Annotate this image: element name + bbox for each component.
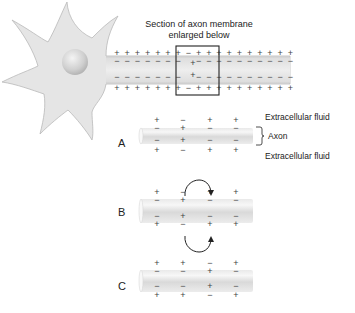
charge-inner-bottom: − — [227, 72, 232, 82]
charge-inner-top: − — [247, 56, 252, 66]
charge-outer-bottom: + — [278, 83, 283, 93]
charge-outer-bottom: + — [227, 83, 232, 93]
charge-inner-bottom: − — [233, 135, 238, 145]
charge-inner-top: − — [257, 56, 262, 66]
charge-outer-bottom: + — [154, 145, 159, 155]
charge-inner-bottom: − — [237, 72, 242, 82]
charge-outer-bottom: + — [154, 219, 159, 229]
charge-inner-top: − — [125, 56, 130, 66]
charge-inner-top: − — [154, 123, 159, 133]
charge-inner-bottom: − — [257, 72, 262, 82]
charge-outer-bottom: + — [207, 145, 212, 155]
axon-label: Axon — [268, 131, 288, 141]
panel-a: A +−++−+−−−+−−+−++ Extracellular fluid A… — [118, 112, 330, 161]
charge-outer-bottom: + — [257, 83, 262, 93]
current-arrow-bottom-icon — [185, 236, 211, 252]
charge-inner-bottom: − — [196, 72, 201, 82]
charge-inner-top: − — [154, 266, 159, 276]
panel-label-b: B — [118, 206, 125, 218]
charge-inner-top: − — [233, 123, 238, 133]
charge-outer-bottom: + — [165, 83, 170, 93]
title-line2: enlarged below — [168, 30, 230, 40]
charge-outer-bottom: + — [206, 83, 211, 93]
panel-label-c: C — [118, 280, 126, 292]
charge-outer-bottom: + — [145, 83, 150, 93]
charge-outer-bottom: + — [135, 83, 140, 93]
charge-outer-bottom: + — [288, 83, 293, 93]
charge-inner-bottom: − — [288, 72, 293, 82]
charge-outer-bottom: − — [180, 219, 185, 229]
charge-inner-bottom: − — [145, 72, 150, 82]
charge-inner-top: − — [155, 56, 160, 66]
charge-inner-top: + — [180, 123, 185, 133]
charge-inner-bottom: − — [247, 72, 252, 82]
axon-bracket — [256, 127, 264, 145]
charge-inner-top: − — [135, 56, 140, 66]
charge-inner-top: − — [180, 266, 185, 276]
charge-outer-bottom: + — [180, 290, 185, 300]
charge-inner-top: − — [233, 195, 238, 205]
charge-inner-top: − — [114, 56, 119, 66]
charge-inner-top: − — [207, 123, 212, 133]
charge-inner-bottom: + — [190, 70, 195, 80]
charge-outer-bottom: + — [233, 290, 238, 300]
charge-inner-top: + — [180, 195, 185, 205]
charge-outer-bottom: + — [154, 290, 159, 300]
charge-outer-bottom: + — [196, 83, 201, 93]
charge-outer-bottom: + — [114, 83, 119, 93]
charge-inner-bottom: − — [135, 72, 140, 82]
charge-outer-top: − — [186, 48, 191, 58]
charge-inner-bottom: − — [165, 72, 170, 82]
charge-outer-bottom: − — [207, 290, 212, 300]
charge-inner-bottom: − — [155, 72, 160, 82]
charge-inner-top: − — [227, 56, 232, 66]
extracellular-fluid-top-label: Extracellular fluid — [265, 112, 330, 122]
panel-c: C ++−+−−+−−−+−++−+ — [118, 258, 253, 300]
charge-inner-top: − — [196, 56, 201, 66]
title-line1: Section of axon membrane — [145, 19, 253, 29]
charge-inner-top: − — [165, 56, 170, 66]
charge-inner-top: − — [267, 56, 272, 66]
charge-outer-bottom: + — [237, 83, 242, 93]
nucleus — [62, 49, 88, 75]
charge-inner-bottom: − — [154, 135, 159, 145]
charge-inner-bottom: + — [180, 135, 185, 145]
charge-inner-top: − — [233, 266, 238, 276]
charge-inner-top: − — [206, 56, 211, 66]
charge-inner-bottom: − — [114, 72, 119, 82]
charge-inner-top: − — [288, 56, 293, 66]
charge-inner-top: − — [278, 56, 283, 66]
neuron-diagram: +++++++−++++++++++−−−−−−−+−−−−−−−−−−−−−−… — [0, 0, 355, 313]
charge-inner-top: − — [145, 56, 150, 66]
charge-inner-top: − — [207, 195, 212, 205]
charge-inner-bottom: − — [267, 72, 272, 82]
charge-outer-bottom: + — [233, 219, 238, 229]
charge-inner-bottom: − — [278, 72, 283, 82]
charge-outer-bottom: − — [186, 83, 191, 93]
charge-inner-bottom: − — [207, 135, 212, 145]
panel-b: B +−++−+−−−+−−+−++ — [118, 180, 253, 252]
panel-label-a: A — [118, 137, 126, 149]
charge-outer-bottom: + — [207, 219, 212, 229]
charge-outer-bottom: + — [155, 83, 160, 93]
charge-inner-top: + — [207, 266, 212, 276]
charge-outer-bottom: + — [125, 83, 130, 93]
charge-outer-bottom: + — [247, 83, 252, 93]
charge-outer-bottom: + — [267, 83, 272, 93]
charge-inner-top: − — [237, 56, 242, 66]
charge-inner-top: − — [154, 195, 159, 205]
charge-inner-bottom: − — [206, 72, 211, 82]
charge-outer-bottom: − — [180, 145, 185, 155]
charge-inner-top: + — [190, 58, 195, 68]
extracellular-fluid-bottom-label: Extracellular fluid — [265, 151, 330, 161]
charge-outer-bottom: + — [233, 145, 238, 155]
charge-inner-bottom: − — [125, 72, 130, 82]
